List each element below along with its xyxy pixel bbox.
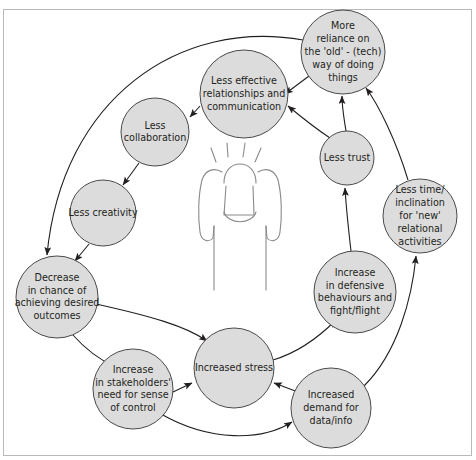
node-less-effective-relationships-label-line: relationships and xyxy=(203,88,286,99)
node-increased-demand-for-data[interactable]: Increaseddemand fordata/info xyxy=(291,368,371,448)
node-decrease-in-chance-of-achieving-label-line: in chance of xyxy=(28,285,87,296)
node-less-time-inclination-label-line: relational xyxy=(397,223,442,234)
edge-increased-demand-to-increased-stress xyxy=(274,383,298,392)
node-more-reliance-on-old-tech-label-line: way of doing xyxy=(312,59,374,70)
node-more-reliance-on-old-tech-label-line: the 'old' - (tech) xyxy=(305,46,382,57)
node-less-collaboration[interactable]: Lesscollaboration xyxy=(121,98,189,166)
node-decrease-in-chance-of-achieving[interactable]: Decreasein chance ofachieving desiredout… xyxy=(15,256,100,338)
node-less-trust-label-line: Less trust xyxy=(324,152,371,163)
node-increased-stress-label: Increased stress xyxy=(195,362,273,373)
node-less-time-inclination[interactable]: Less time/inclinationfor 'new'relational… xyxy=(383,179,457,253)
node-increased-stress-label-line: Increased stress xyxy=(195,362,273,373)
node-less-time-inclination-label-line: for 'new' xyxy=(399,210,440,221)
node-decrease-in-chance-of-achieving-label-line: Decrease xyxy=(35,272,80,283)
node-less-time-inclination-label-line: Less time/ xyxy=(395,184,445,195)
node-decrease-in-chance-of-achieving-label-line: achieving desired xyxy=(15,297,100,308)
node-less-collaboration-label-line: Less xyxy=(144,120,165,131)
node-less-time-inclination-label-line: activities xyxy=(398,236,441,247)
node-increased-demand-for-data-label-line: Increased xyxy=(308,389,355,400)
node-less-effective-relationships[interactable]: Less effectiverelationships andcommunica… xyxy=(200,50,288,138)
node-less-time-inclination-label-line: inclination xyxy=(395,197,445,208)
node-increased-stress[interactable]: Increased stress xyxy=(194,328,274,408)
edge-less-trust-to-more-reliance xyxy=(342,96,346,131)
edge-less-collaboration-to-less-creativity xyxy=(123,163,139,185)
node-increase-in-defensive-behaviours-label-line: Increase xyxy=(335,267,376,278)
node-increase-in-stakeholders-need-for-control-label-line: in stakeholders' xyxy=(95,377,171,388)
edge-increase-stakeholders-to-increased-demand xyxy=(161,414,292,436)
node-increased-demand-for-data-label-line: data/info xyxy=(310,415,353,426)
node-increase-in-stakeholders-need-for-control-label-line: need for sense xyxy=(97,389,168,400)
edge-less-effective-to-less-trust xyxy=(288,106,330,138)
nodes-layer: Morereliance onthe 'old' - (tech)way of … xyxy=(15,10,457,448)
edge-decrease-chance-to-increased-stress xyxy=(96,304,207,341)
node-less-time-inclination-label: Less time/inclinationfor 'new'relational… xyxy=(395,184,445,246)
edge-less-creativity-to-decrease-chance xyxy=(75,244,89,261)
node-increase-in-stakeholders-need-for-control[interactable]: Increasein stakeholders'need for senseof… xyxy=(93,349,173,429)
node-decrease-in-chance-of-achieving-label-line: outcomes xyxy=(33,310,80,321)
causal-loop-diagram: Morereliance onthe 'old' - (tech)way of … xyxy=(0,0,476,460)
node-less-trust[interactable]: Less trust xyxy=(320,131,374,185)
node-less-trust-label: Less trust xyxy=(324,152,371,163)
node-less-creativity-label: Less creativity xyxy=(68,207,137,218)
node-increase-in-stakeholders-need-for-control-label-line: Increase xyxy=(113,364,154,375)
node-less-effective-relationships-label: Less effectiverelationships andcommunica… xyxy=(203,75,286,112)
node-more-reliance-on-old-tech-label-line: things xyxy=(328,72,358,83)
node-more-reliance-on-old-tech-label-line: More xyxy=(331,20,355,31)
edge-more-reliance-to-less-effective xyxy=(285,76,309,94)
node-increase-in-defensive-behaviours[interactable]: Increasein defensivebehaviours andfight/… xyxy=(314,251,396,333)
edge-increase-stakeholders-to-increased-stress xyxy=(173,383,192,392)
stressed-person-head-in-hands-icon xyxy=(199,143,282,290)
diagram-canvas: Morereliance onthe 'old' - (tech)way of … xyxy=(0,0,476,460)
node-more-reliance-on-old-tech[interactable]: Morereliance onthe 'old' - (tech)way of … xyxy=(301,10,385,94)
node-less-effective-relationships-label-line: communication xyxy=(207,101,281,112)
node-increased-demand-for-data-label-line: demand for xyxy=(303,402,359,413)
node-less-effective-relationships-label-line: Less effective xyxy=(211,75,277,86)
node-less-creativity-label-line: Less creativity xyxy=(68,207,137,218)
node-increase-in-defensive-behaviours-label-line: in defensive xyxy=(326,280,384,291)
edge-less-effective-to-less-collaboration xyxy=(190,106,200,117)
edge-increase-defensive-to-less-trust xyxy=(345,188,351,251)
node-increase-in-defensive-behaviours-label-line: fight/flight xyxy=(330,305,380,316)
edge-increased-stress-to-increase-defensive xyxy=(273,320,336,360)
node-less-creativity[interactable]: Less creativity xyxy=(68,180,137,246)
node-less-collaboration-label-line: collaboration xyxy=(124,132,187,143)
node-increase-in-stakeholders-need-for-control-label-line: of control xyxy=(110,402,156,413)
node-more-reliance-on-old-tech-label-line: reliance on xyxy=(316,33,369,44)
node-increase-in-defensive-behaviours-label-line: behaviours and xyxy=(318,292,392,303)
node-increased-demand-for-data-label: Increaseddemand fordata/info xyxy=(303,389,359,426)
